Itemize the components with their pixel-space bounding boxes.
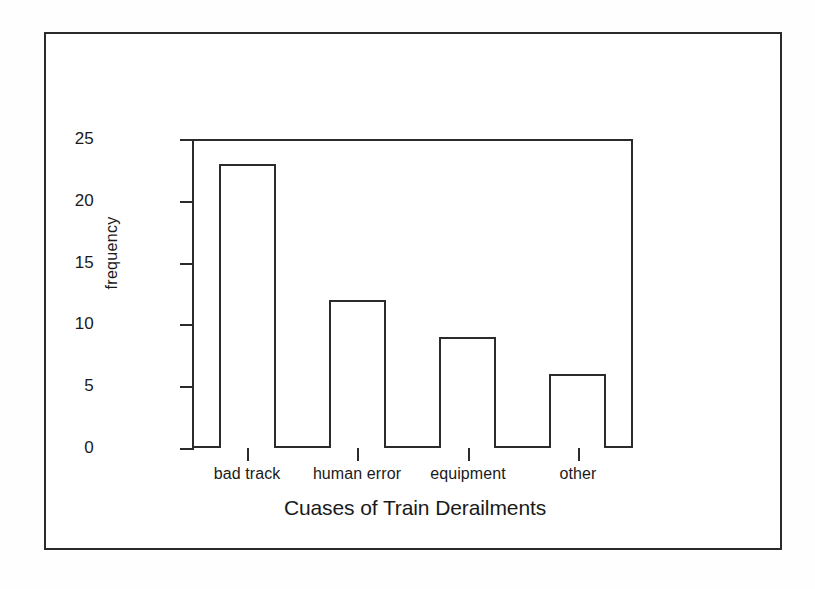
bar-human-error[interactable] — [329, 300, 386, 448]
x-label-equipment: equipment — [430, 465, 506, 483]
x-label-human-error: human error — [313, 465, 401, 483]
x-tick-other — [578, 448, 580, 461]
y-tick-label-25: 25 — [54, 130, 94, 147]
figure-outer-border: 25 20 15 10 5 0 frequency bad track huma… — [44, 32, 782, 550]
y-tick-5 — [180, 386, 194, 388]
x-tick-human-error — [357, 448, 359, 461]
x-tick-equipment — [468, 448, 470, 461]
y-axis-title: frequency — [103, 193, 121, 313]
bar-bad-track[interactable] — [219, 164, 276, 448]
y-tick-20 — [180, 201, 194, 203]
y-tick-label-15: 15 — [54, 254, 94, 271]
x-label-other: other — [560, 465, 597, 483]
y-tick-label-10: 10 — [54, 315, 94, 332]
y-tick-label-5: 5 — [54, 377, 94, 394]
bar-chart: 25 20 15 10 5 0 frequency bad track huma… — [46, 34, 784, 552]
y-tick-15 — [180, 263, 194, 265]
y-tick-0 — [180, 448, 194, 450]
x-label-bad-track: bad track — [214, 465, 281, 483]
y-tick-label-0: 0 — [54, 439, 94, 456]
bar-other[interactable] — [549, 374, 606, 448]
bar-equipment[interactable] — [439, 337, 496, 448]
x-axis-title: Cuases of Train Derailments — [46, 496, 784, 520]
y-tick-label-20: 20 — [54, 192, 94, 209]
x-tick-bad-track — [247, 448, 249, 461]
bars-layer — [192, 139, 633, 448]
y-tick-10 — [180, 324, 194, 326]
scanned-page: 25 20 15 10 5 0 frequency bad track huma… — [0, 0, 815, 589]
y-tick-25 — [180, 139, 194, 141]
